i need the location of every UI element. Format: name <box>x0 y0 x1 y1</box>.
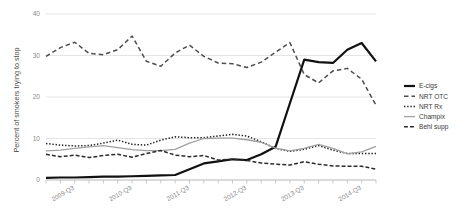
legend-label-nrt-rx: NRT Rx <box>419 103 443 110</box>
legend-label-nrt-otc: NRT OTC <box>419 93 448 100</box>
x-axis: 2009-Q32010-Q32011-Q32012-Q32013-Q32014-… <box>46 180 376 203</box>
line-chart: 010203040 2009-Q32010-Q32011-Q32012-Q320… <box>0 0 467 218</box>
series-line-e-cigs <box>46 43 376 178</box>
series-line-behl-supp <box>46 151 376 170</box>
y-tick-label: 20 <box>33 93 41 100</box>
legend: E-cigsNRT OTCNRT RxChampixBehl supp <box>404 82 449 131</box>
y-tick-label: 0 <box>36 176 40 183</box>
legend-label-champix: Champix <box>419 113 446 121</box>
legend-label-e-cigs: E-cigs <box>419 82 438 90</box>
x-tick-label: 2012-Q3 <box>222 184 248 204</box>
x-tick-label: 2010-Q3 <box>108 184 134 204</box>
y-axis-label: Percent of smokers trying to stop <box>12 47 21 152</box>
chart-canvas: 010203040 2009-Q32010-Q32011-Q32012-Q320… <box>0 0 467 218</box>
x-tick-label: 2009-Q3 <box>50 184 76 204</box>
y-axis-title: Percent of smokers trying to stop <box>12 47 21 152</box>
series-line-champix <box>46 138 376 154</box>
legend-label-behl-supp: Behl supp <box>419 123 449 131</box>
series-line-nrt-rx <box>46 134 376 153</box>
gridlines <box>46 14 376 180</box>
series-lines <box>46 36 376 178</box>
x-tick-label: 2011-Q3 <box>165 184 191 203</box>
y-tick-label: 30 <box>33 52 41 59</box>
y-tick-label: 40 <box>33 10 41 17</box>
y-tick-label: 10 <box>33 135 41 142</box>
x-tick-label: 2013-Q3 <box>280 184 306 204</box>
x-tick-label: 2014-Q3 <box>337 184 363 204</box>
y-axis-ticks: 010203040 <box>33 10 41 183</box>
series-line-nrt-otc <box>46 36 376 105</box>
